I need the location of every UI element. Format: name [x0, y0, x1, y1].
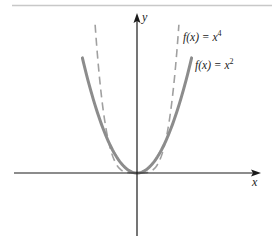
- label-x4: f(x) = x4: [183, 29, 222, 44]
- label-x2-text: f(x) = x: [195, 59, 230, 72]
- label-x4-exponent: 4: [218, 29, 222, 38]
- function-graph: y x f(x) = x4 f(x) = x2: [0, 0, 272, 252]
- label-x2: f(x) = x2: [195, 57, 234, 72]
- y-axis-label: y: [141, 10, 148, 24]
- label-x2-exponent: 2: [230, 57, 234, 66]
- label-x4-text: f(x) = x: [183, 31, 218, 44]
- x-axis-label: x: [251, 175, 258, 189]
